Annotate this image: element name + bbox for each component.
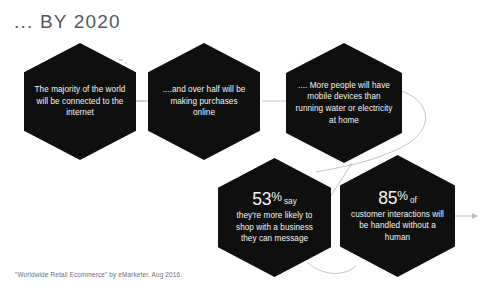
hexagon-message-business-label: they're more likely to shop with a busin… [236, 211, 313, 243]
hexagon-interactions-no-human-label: customer interactions will be handled wi… [351, 210, 444, 242]
infographic-canvas: ... BY 2020 The majority of the world wi… [0, 0, 485, 299]
hexagon-mobile-devices-label: .... More people will have mobile device… [286, 80, 402, 126]
stat-53-percent-sign: % [271, 190, 282, 204]
scan-artifact-speck [119, 59, 123, 61]
arrow-right-icon [472, 213, 478, 219]
hexagon-interactions-no-human-content: 85%of customer interactions will be hand… [340, 189, 455, 244]
hexagon-message-business-content: 53%say they're more likely to shop with … [218, 190, 331, 245]
hexagon-online-purchases-label: ....and over half will be making purchas… [148, 84, 260, 119]
stat-85-line: 85%of [351, 189, 444, 208]
stat-85-value: 85 [378, 188, 397, 208]
stat-53-suffix: say [282, 197, 297, 206]
source-citation: "Worldwide Retail Ecommerce" by eMarkete… [15, 271, 182, 278]
hexagon-internet-majority-label: The majority of the world will be connec… [24, 84, 136, 119]
scan-artifact-speck [125, 62, 127, 64]
stat-85-percent-sign: % [397, 189, 408, 203]
stat-85-suffix: of [408, 196, 417, 205]
connector-bottom-curve [307, 262, 356, 273]
stat-53-value: 53 [252, 189, 271, 209]
stat-53-line: 53%say [229, 190, 320, 209]
